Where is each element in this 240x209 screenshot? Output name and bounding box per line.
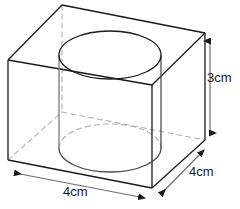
dimension-label-height: 3cm [207, 71, 232, 84]
hidden-edge-bottom-right-back [62, 112, 205, 140]
box-solid-edges-group [8, 5, 205, 188]
box-edge-top-back-right [62, 5, 205, 33]
hidden-edges-group [8, 5, 205, 160]
dimension-label-depth: 4cm [189, 165, 214, 178]
cylinder-top-ellipse [59, 31, 161, 79]
dimension-label-width: 4cm [63, 185, 88, 198]
geometry-figure: 3cm 4cm 4cm [0, 0, 240, 209]
hidden-edge-bottom-left-back [8, 112, 62, 160]
cylinder-group [59, 31, 161, 172]
cylinder-bottom-back-arc [59, 124, 161, 148]
box-edge-top-front-left [8, 60, 152, 85]
dimension-lines-group [15, 41, 210, 198]
cylinder-bottom-front-arc [59, 148, 161, 172]
box-edge-top-left-back [8, 5, 62, 60]
